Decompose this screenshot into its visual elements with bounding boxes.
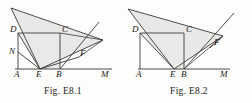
fig2-shaded-square-overlay bbox=[140, 33, 184, 69]
fig2-label-A: A bbox=[135, 69, 142, 79]
fig2-label-F: F bbox=[213, 37, 220, 47]
figure-e8-1-drawing: A E B M D C N F bbox=[0, 0, 126, 86]
fig1-label-C: C bbox=[62, 24, 69, 34]
fig1-label-F: F bbox=[79, 48, 86, 58]
fig2-caption: Fig. E8.2 bbox=[126, 86, 252, 96]
figure-e8-2-drawing: A E B M D C F bbox=[126, 0, 252, 86]
figure-sheet: A E B M D C N F Fig. E8.1 A E bbox=[0, 0, 252, 103]
fig1-label-M: M bbox=[100, 69, 109, 79]
fig1-label-D: D bbox=[9, 24, 17, 34]
fig1-caption: Fig. E8.1 bbox=[0, 86, 126, 96]
fig2-label-D: D bbox=[131, 24, 139, 34]
fig2-label-E: E bbox=[169, 69, 176, 79]
fig1-label-E: E bbox=[35, 69, 42, 79]
fig2-label-B: B bbox=[181, 69, 187, 79]
fig1-label-B: B bbox=[56, 69, 62, 79]
fig1-shaded-square-overlay bbox=[18, 33, 60, 69]
fig2-label-M: M bbox=[219, 69, 228, 79]
fig1-label-N: N bbox=[8, 46, 16, 56]
fig1-label-A: A bbox=[13, 69, 20, 79]
fig2-label-C: C bbox=[186, 24, 193, 34]
